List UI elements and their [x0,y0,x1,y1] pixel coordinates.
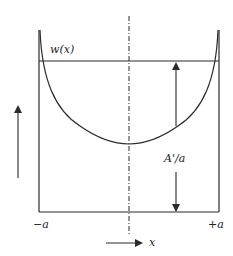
diagram-canvas: w(x) A'/a −a +a x [0,0,233,256]
right-bound-label: +a [208,218,224,231]
left-bound-label: −a [33,218,49,231]
curve-label: w(x) [50,43,74,56]
x-axis-label: x [149,236,156,249]
gap-label: A'/a [163,152,185,165]
